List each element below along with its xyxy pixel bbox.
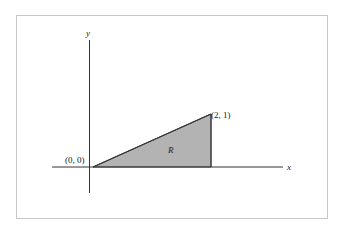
frame	[17, 16, 328, 219]
region-label: R	[167, 145, 174, 155]
diagram: y x (0, 0) (2, 1) R	[0, 0, 341, 230]
y-axis-label: y	[85, 28, 90, 38]
origin-label: (0, 0)	[65, 155, 85, 165]
point-label: (2, 1)	[211, 110, 231, 120]
x-axis-label: x	[286, 162, 291, 172]
